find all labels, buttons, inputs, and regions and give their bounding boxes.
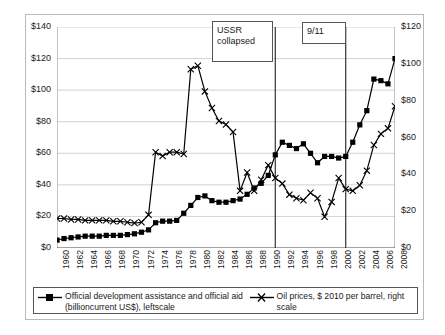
x-axis-tick-2004: 2004 [371, 250, 381, 269]
x-axis-tick-1976: 1976 [174, 250, 184, 269]
x-axis-labels: 1960196219641966196819701972197419761978… [57, 250, 395, 286]
annotation-ussr-line2: collapsed [217, 36, 268, 47]
y-axis-left-tick-20: $20 [17, 210, 51, 220]
chart-legend: Official development assistance and offi… [33, 287, 418, 314]
y-axis-right-tick-100: $100 [401, 58, 435, 68]
annotation-nine-eleven-line1: 9/11 [307, 26, 341, 37]
x-axis-tick-1988: 1988 [258, 250, 268, 269]
annotation-ussr-line1: USSR [217, 25, 268, 36]
y-axis-left-tick-40: $40 [17, 179, 51, 189]
x-axis-tick-1996: 1996 [315, 250, 325, 269]
annotation-nine-eleven: 9/11 [302, 22, 346, 44]
x-axis-tick-1984: 1984 [230, 250, 240, 269]
x-axis-tick-1972: 1972 [146, 250, 156, 269]
legend-label-oda: Official development assistance and offi… [65, 291, 250, 312]
y-axis-left-tick-120: $120 [17, 53, 51, 63]
x-axis-tick-2008: 2008 [399, 250, 409, 269]
chart-figure: $0$20$40$60$80$100$120$140 $0$20$40$60$8… [0, 0, 445, 335]
y-axis-left-tick-60: $60 [17, 147, 51, 157]
x-axis-tick-2006: 2006 [385, 250, 395, 269]
x-axis-tick-1964: 1964 [89, 250, 99, 269]
x-axis-tick-1962: 1962 [75, 250, 85, 269]
x-axis-tick-1968: 1968 [117, 250, 127, 269]
y-axis-right-tick-40: $40 [401, 168, 435, 178]
y-axis-right-tick-80: $80 [401, 95, 435, 105]
legend-item-oil: Oil prices, $ 2010 per barrel, right sca… [250, 291, 413, 312]
x-axis-tick-1960: 1960 [61, 250, 71, 269]
x-axis-tick-1994: 1994 [300, 250, 310, 269]
y-axis-left-tick-140: $140 [17, 21, 51, 31]
y-axis-left-tick-100: $100 [17, 84, 51, 94]
legend-item-oda: Official development assistance and offi… [38, 291, 250, 312]
x-axis-tick-1986: 1986 [244, 250, 254, 269]
annotation-ussr-collapsed: USSR collapsed [212, 21, 273, 62]
x-axis-tick-1982: 1982 [216, 250, 226, 269]
y-axis-left-tick-80: $80 [17, 116, 51, 126]
x-axis-tick-1966: 1966 [103, 250, 113, 269]
legend-label-oil: Oil prices, $ 2010 per barrel, right sca… [277, 291, 413, 312]
x-axis-tick-1990: 1990 [272, 250, 282, 269]
legend-marker-square-line [38, 292, 62, 303]
x-axis-tick-1970: 1970 [131, 250, 141, 269]
x-axis-tick-1992: 1992 [286, 250, 296, 269]
x-axis-tick-1978: 1978 [188, 250, 198, 269]
y-axis-left-tick-0: $0 [17, 242, 51, 252]
y-axis-right-tick-20: $20 [401, 205, 435, 215]
legend-marker-x-line [250, 292, 274, 303]
y-axis-right-tick-60: $60 [401, 132, 435, 142]
x-axis-tick-1980: 1980 [202, 250, 212, 269]
y-axis-right-tick-120: $120 [401, 21, 435, 31]
x-axis-tick-1998: 1998 [329, 250, 339, 269]
x-axis-tick-2000: 2000 [343, 250, 353, 269]
x-axis-tick-1974: 1974 [160, 250, 170, 269]
x-axis-tick-2002: 2002 [357, 250, 367, 269]
